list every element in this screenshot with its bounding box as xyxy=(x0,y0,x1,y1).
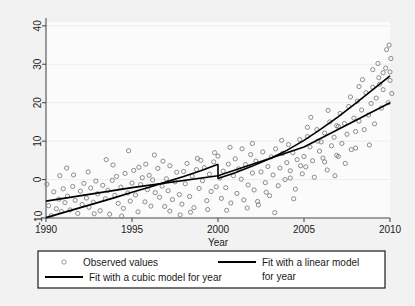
legend-label-linear-model: Fit with a linear model xyxy=(262,257,359,268)
x-axis-tick-label: 2005 xyxy=(293,224,316,235)
figure-container: -10010203040 19901995200020052010 Year O… xyxy=(0,0,415,306)
x-axis-tick-label: 2010 xyxy=(379,224,402,235)
x-axis-tick-label: 1995 xyxy=(121,224,144,235)
legend-label-linear-model-line2: for year xyxy=(262,271,297,282)
x-axis-tick-label: 2000 xyxy=(207,224,230,235)
y-axis-tick-label: 10 xyxy=(33,135,44,147)
y-axis-tick-label: -10 xyxy=(33,210,44,225)
x-axis-title: Year xyxy=(208,237,229,248)
legend-label-cubic-model: Fit with a cubic model for year xyxy=(89,272,222,283)
y-axis-tick-label: 20 xyxy=(33,97,44,109)
legend-label-observed-values: Observed values xyxy=(83,257,158,268)
chart-canvas: -10010203040 19901995200020052010 Year O… xyxy=(0,0,415,306)
y-axis-tick-label: 30 xyxy=(33,58,44,70)
y-axis-tick-label: 0 xyxy=(33,176,44,182)
chart-legend: Observed valuesFit with a linear modelfo… xyxy=(38,251,385,288)
x-axis-tick-label: 1990 xyxy=(35,224,58,235)
y-axis-tick-label: 40 xyxy=(33,20,44,32)
